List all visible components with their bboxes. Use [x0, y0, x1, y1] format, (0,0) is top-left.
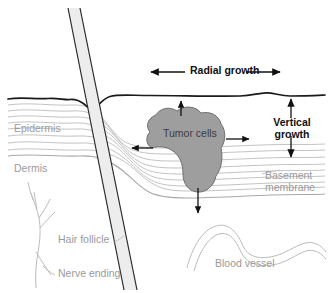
skin-surface-line	[8, 93, 325, 110]
nerve-ending-label: Nerve ending	[58, 268, 120, 280]
epidermis-label: Epidermis	[14, 123, 61, 135]
radial-growth-label: Radial growth	[190, 65, 259, 77]
skin-melanoma-diagram: Radial growth Vertical growth Epidermis …	[0, 0, 331, 293]
basement-membrane-label: Basement membrane	[265, 170, 315, 194]
tumor-cells-shape	[147, 107, 225, 192]
blood-vessel-label: Blood vessel	[215, 258, 275, 270]
tumor-cells-label: Tumor cells	[163, 128, 217, 140]
dermis-label: Dermis	[14, 163, 47, 175]
nerve-ending-leader	[43, 266, 55, 275]
hair-follicle-label: Hair follicle	[58, 234, 109, 246]
vertical-growth-label: Vertical growth	[268, 117, 316, 141]
diagram-canvas	[0, 0, 331, 293]
